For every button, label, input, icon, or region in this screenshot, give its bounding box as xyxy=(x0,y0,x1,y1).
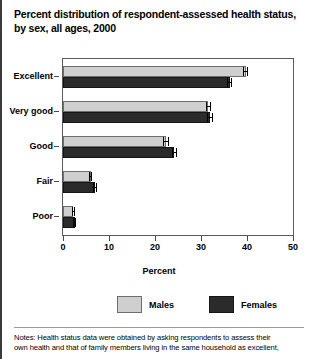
footnote-line-2: own health and that of family members li… xyxy=(14,343,310,353)
x-axis-tick xyxy=(247,236,248,241)
bar-group-poor xyxy=(63,206,293,228)
y-axis-label-good: Good xyxy=(30,141,54,151)
y-axis-category-labels: ExcellentVery goodGoodFairPoor xyxy=(2,58,59,236)
error-bar xyxy=(227,78,233,87)
bar-males-fair xyxy=(63,171,91,182)
x-axis-tick-label: 50 xyxy=(288,242,298,252)
bar-group-very-good xyxy=(63,101,293,123)
chart-title-line-2: by sex, all ages, 2000 xyxy=(14,22,306,36)
error-bar xyxy=(93,183,97,192)
y-axis-tick xyxy=(54,216,59,217)
bar-row xyxy=(63,217,293,228)
y-axis-label-fair: Fair xyxy=(36,176,53,186)
y-axis-tick xyxy=(54,76,59,77)
error-bar xyxy=(163,137,169,146)
x-axis-tick xyxy=(201,236,202,241)
figure-panel: Percent distribution of respondent-asses… xyxy=(0,0,314,359)
error-bar xyxy=(172,148,178,157)
chart-title: Percent distribution of respondent-asses… xyxy=(14,8,306,35)
error-bar xyxy=(89,172,93,181)
y-axis-tick xyxy=(54,181,59,182)
chart-title-line-1: Percent distribution of respondent-asses… xyxy=(14,8,306,22)
bar-group-excellent xyxy=(63,66,293,88)
chart-legend: Males Females xyxy=(2,296,314,322)
bar-females-excellent xyxy=(63,77,230,88)
footnote: Notes: Health status data were obtained … xyxy=(14,333,310,353)
x-axis-tick-label: 30 xyxy=(196,242,206,252)
legend-item-males: Males xyxy=(117,296,174,313)
bar-row xyxy=(63,171,293,182)
legend-label-males: Males xyxy=(149,300,174,310)
bar-males-very-good xyxy=(63,101,208,112)
plot-area xyxy=(62,58,294,236)
bar-row xyxy=(63,136,293,147)
bar-row xyxy=(63,77,293,88)
bar-group-fair xyxy=(63,171,293,193)
x-axis-tick-label: 20 xyxy=(150,242,160,252)
y-axis-tick xyxy=(54,146,59,147)
x-axis-ticks xyxy=(62,236,294,241)
x-axis-tick xyxy=(63,236,64,241)
error-bar xyxy=(72,207,75,216)
x-axis-tick-labels: 01020304050 xyxy=(2,242,314,254)
bar-row xyxy=(63,206,293,217)
bar-row xyxy=(63,66,293,77)
y-axis-label-very-good: Very good xyxy=(9,106,53,116)
y-axis-label-excellent: Excellent xyxy=(13,71,53,81)
legend-item-females: Females xyxy=(209,296,277,313)
footnote-divider xyxy=(14,327,304,328)
x-axis-tick-label: 10 xyxy=(104,242,114,252)
bar-females-fair xyxy=(63,182,95,193)
bar-row xyxy=(63,101,293,112)
legend-label-females: Females xyxy=(241,300,277,310)
x-axis-tick xyxy=(109,236,110,241)
plot-inner xyxy=(63,59,293,235)
bar-group-good xyxy=(63,136,293,158)
x-axis-tick xyxy=(293,236,294,241)
x-axis-tick-label: 40 xyxy=(242,242,252,252)
legend-swatch-males-icon xyxy=(117,296,142,313)
legend-swatch-females-icon xyxy=(209,296,234,313)
error-bar xyxy=(73,218,76,227)
bar-males-excellent xyxy=(63,66,246,77)
footnote-line-1: Notes: Health status data were obtained … xyxy=(14,333,310,343)
bar-females-very-good xyxy=(63,112,210,123)
bar-row xyxy=(63,147,293,158)
bar-females-good xyxy=(63,147,174,158)
y-axis-label-poor: Poor xyxy=(32,211,53,221)
bar-row xyxy=(63,182,293,193)
x-axis-tick xyxy=(155,236,156,241)
x-axis-title: Percent xyxy=(2,266,314,276)
error-bar xyxy=(206,102,212,111)
bar-males-good xyxy=(63,136,166,147)
x-axis-tick-label: 0 xyxy=(60,242,65,252)
error-bar xyxy=(243,67,249,76)
bar-row xyxy=(63,112,293,123)
y-axis-tick xyxy=(54,111,59,112)
error-bar xyxy=(207,113,213,122)
